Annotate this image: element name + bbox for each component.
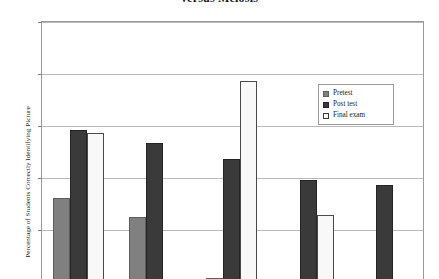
legend-label: Final exam bbox=[333, 112, 365, 119]
legend-swatch-icon bbox=[323, 113, 329, 119]
bar-pretest-group-2 bbox=[129, 217, 146, 279]
chart-canvas: versus Meiosis Percentage of Students Co… bbox=[0, 0, 439, 279]
bar-finalexam-group-3 bbox=[240, 81, 257, 279]
legend-item-final-exam[interactable]: Final exam bbox=[323, 110, 389, 121]
bar-finalexam-group-1 bbox=[87, 133, 104, 279]
tick-mark-80 bbox=[38, 126, 42, 127]
legend-label: Pretest bbox=[333, 90, 353, 97]
tick-mark-120 bbox=[38, 22, 42, 23]
gridline-80 bbox=[42, 126, 423, 127]
tick-mark-100 bbox=[38, 74, 42, 75]
tick-mark-60 bbox=[38, 178, 42, 179]
gridline-120 bbox=[42, 22, 423, 23]
legend-item-pretest[interactable]: Pretest bbox=[323, 88, 389, 99]
legend-swatch-icon bbox=[323, 91, 329, 97]
bar-posttest-group-5 bbox=[376, 185, 393, 279]
legend-swatch-icon bbox=[323, 102, 329, 108]
tick-mark-40 bbox=[38, 230, 42, 231]
gridline-100 bbox=[42, 74, 423, 75]
bar-finalexam-group-4 bbox=[317, 215, 334, 279]
legend-label: Post test bbox=[333, 101, 357, 108]
y-axis-title: Percentage of Students Correctly Identif… bbox=[24, 57, 32, 279]
bar-posttest-group-4 bbox=[300, 180, 317, 279]
chart-title: versus Meiosis bbox=[0, 0, 439, 6]
legend-item-post-test[interactable]: Post test bbox=[323, 99, 389, 110]
bar-posttest-group-1 bbox=[70, 130, 87, 279]
bar-pretest-group-1 bbox=[53, 198, 70, 279]
bar-posttest-group-3 bbox=[223, 159, 240, 279]
plot-area: 20406080100120 bbox=[41, 21, 424, 279]
bar-posttest-group-2 bbox=[146, 143, 163, 279]
chart-legend: Pretest Post test Final exam bbox=[318, 84, 394, 125]
